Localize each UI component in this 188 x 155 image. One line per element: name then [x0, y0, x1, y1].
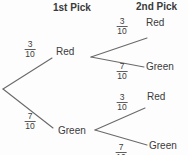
- outcome-label-first-green: Green: [58, 126, 86, 136]
- fraction-denominator: 10: [117, 72, 126, 81]
- probability-fraction-red-red: 3 10: [117, 17, 128, 36]
- fraction-denominator: 10: [117, 27, 126, 36]
- outcome-label-green-red: Red: [147, 92, 165, 102]
- fraction-denominator: 10: [117, 103, 126, 112]
- outcome-label-red-red: Red: [146, 18, 164, 28]
- outcome-label-first-red: Red: [56, 47, 74, 57]
- probability-tree-diagram: 1st Pick 2nd Pick 3 10 7 10 Red Green 3 …: [0, 0, 188, 155]
- branch-line-red-red: [91, 38, 147, 57]
- branch-line-root-red: [3, 58, 52, 89]
- outcome-label-red-green: Green: [146, 62, 174, 72]
- fraction-denominator: 10: [25, 50, 34, 59]
- fraction-denominator: 10: [25, 122, 34, 131]
- fraction-denominator: 10: [116, 153, 125, 155]
- probability-fraction-red-green: 7 10: [117, 62, 128, 81]
- outcome-label-green-green: Green: [149, 141, 177, 151]
- probability-fraction-green-red: 3 10: [117, 93, 128, 112]
- probability-fraction-first-red: 3 10: [25, 40, 36, 59]
- probability-fraction-first-green: 7 10: [25, 112, 36, 131]
- probability-fraction-green-green: 7 10: [116, 143, 127, 155]
